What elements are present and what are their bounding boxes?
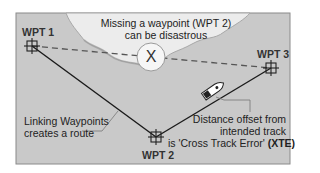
waypoint-1-label: WPT 1 — [22, 26, 54, 38]
xte-note-line2: intended track — [168, 125, 286, 137]
waypoint-2-label: WPT 2 — [142, 149, 174, 161]
route-note-line1: Linking Waypoints — [24, 115, 109, 127]
xte-note-line1: Distance offset from — [168, 113, 286, 125]
missing-waypoint-note: Missing a waypoint (WPT 2) can be disast… — [96, 17, 236, 41]
xte-note-line3-text: is 'Cross Track Error' — [168, 137, 268, 149]
route-note: Linking Waypoints creates a route — [24, 115, 109, 139]
missing-waypoint-note-line2: can be disastrous — [96, 29, 236, 41]
missed-waypoint-marker: X — [143, 49, 159, 65]
xte-note: Distance offset from intended track is '… — [168, 113, 286, 149]
waypoint-3-label: WPT 3 — [257, 48, 289, 60]
xte-note-line3: is 'Cross Track Error' (XTE) — [168, 137, 286, 149]
missing-waypoint-note-line1: Missing a waypoint (WPT 2) — [96, 17, 236, 29]
route-note-line2: creates a route — [24, 127, 109, 139]
xte-abbreviation: (XTE) — [268, 137, 295, 149]
